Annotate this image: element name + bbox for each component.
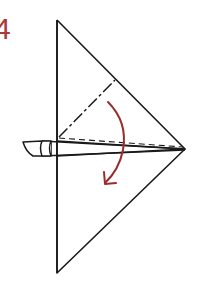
origami-diagram bbox=[0, 0, 207, 288]
folded-flap bbox=[23, 141, 185, 156]
mountain-fold-line bbox=[59, 80, 115, 137]
